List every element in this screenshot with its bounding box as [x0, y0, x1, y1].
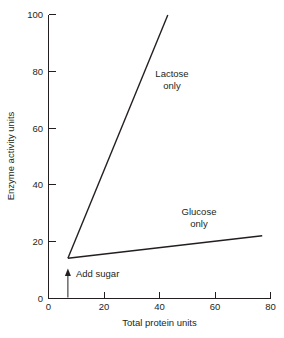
y-axis-ticks: [49, 15, 56, 242]
x-tick-label-0: 0: [46, 301, 51, 312]
axis-spines: [49, 15, 271, 299]
add-sugar-label: Add sugar: [76, 268, 119, 279]
y-tick-label-80: 80: [32, 66, 43, 77]
x-tick-label-60: 60: [210, 301, 221, 312]
y-tick-label-60: 60: [32, 123, 43, 134]
x-axis-title: Total protein units: [122, 317, 197, 328]
x-axis-ticks: [49, 292, 271, 299]
series-line-lactose: [68, 15, 168, 258]
y-tick-label-40: 40: [32, 179, 43, 190]
y-tick-label-20: 20: [32, 236, 43, 247]
series-label-glucose-line2: only: [190, 218, 208, 229]
series-label-glucose: Glucose only: [182, 206, 217, 229]
series-label-lactose-line1: Lactose: [155, 68, 188, 79]
x-axis-tick-labels: 0 20 40 60 80: [46, 301, 276, 312]
series-line-glucose: [68, 236, 262, 258]
series-label-lactose-line2: only: [163, 80, 181, 91]
y-axis-title: Enzyme activity units: [5, 111, 16, 200]
y-tick-label-100: 100: [27, 9, 43, 20]
chart-figure: 100 80 60 40 20 0 0 20 40 60 80 Lac: [0, 0, 284, 338]
y-tick-label-0: 0: [38, 293, 43, 304]
x-tick-label-20: 20: [99, 301, 110, 312]
series-label-lactose: Lactose only: [155, 68, 188, 91]
x-tick-label-40: 40: [154, 301, 165, 312]
line-chart: 100 80 60 40 20 0 0 20 40 60 80 Lac: [0, 0, 284, 338]
annotation-add-sugar: Add sugar: [65, 268, 119, 298]
x-tick-label-80: 80: [265, 301, 276, 312]
add-sugar-arrow-head-icon: [65, 269, 71, 277]
y-axis-tick-labels: 100 80 60 40 20 0: [27, 9, 43, 304]
series-label-glucose-line1: Glucose: [182, 206, 217, 217]
